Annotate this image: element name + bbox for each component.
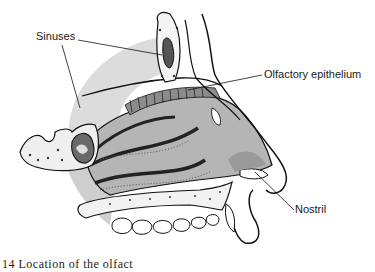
- label-olfactory-epithelium: Olfactory epithelium: [264, 69, 361, 80]
- nostril-opening: [240, 169, 268, 179]
- front-tooth: [225, 204, 234, 232]
- sinuses-leader-maxillary: [62, 45, 80, 108]
- upper-lip-outline: [232, 190, 259, 243]
- label-nostril: Nostril: [295, 204, 326, 215]
- teeth: [112, 215, 219, 235]
- nostril-leader: [255, 172, 294, 210]
- olfactory-leader: [188, 75, 262, 90]
- label-sinuses: Sinuses: [36, 31, 75, 42]
- figure-caption: 14 Location of the olfact: [2, 257, 133, 272]
